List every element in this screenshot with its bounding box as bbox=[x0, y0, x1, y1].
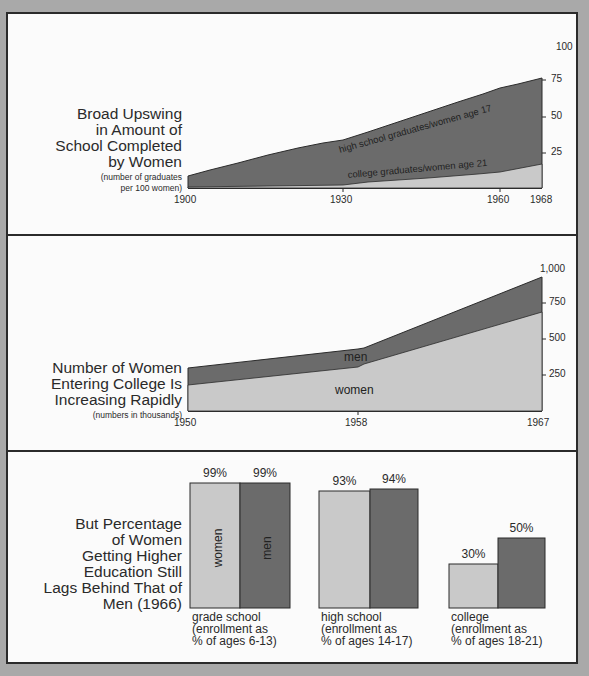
category-high-school: high school (enrollment as % of ages 14-… bbox=[321, 611, 412, 647]
value-high-school-men: 94% bbox=[370, 472, 418, 486]
panel-school-completed: Broad Upswing in Amount of School Comple… bbox=[8, 14, 576, 234]
y-tick-25: 25 bbox=[551, 146, 562, 157]
x-tick-1960: 1960 bbox=[487, 194, 509, 205]
category-grade-school: grade school (enrollment as % of ages 6-… bbox=[192, 611, 277, 647]
value-grade-school-women: 99% bbox=[190, 466, 240, 480]
chart2-area-plot: men women bbox=[8, 236, 580, 452]
panel-entering-college: Number of Women Entering College Is Incr… bbox=[8, 234, 576, 452]
bar-inner-label-women: women bbox=[211, 529, 225, 569]
bar-high-school-men bbox=[370, 489, 418, 608]
x-tick-1958: 1958 bbox=[345, 417, 367, 428]
bar-inner-label-men: men bbox=[260, 536, 274, 559]
label-women: women bbox=[334, 383, 374, 397]
y-tick-1000: 1,000 bbox=[540, 263, 565, 274]
y-tick-750: 750 bbox=[549, 296, 566, 307]
bar-college-women bbox=[449, 564, 498, 608]
value-grade-school-men: 99% bbox=[240, 466, 290, 480]
y-tick-100: 100 bbox=[556, 41, 573, 52]
x-tick-1930: 1930 bbox=[330, 194, 352, 205]
category-college: college (enrollment as % of ages 18-21) bbox=[451, 611, 542, 647]
y-tick-50: 50 bbox=[551, 110, 562, 121]
label-men: men bbox=[344, 350, 367, 364]
x-tick-1967: 1967 bbox=[527, 417, 549, 428]
y-tick-250: 250 bbox=[549, 368, 566, 379]
y-tick-500: 500 bbox=[549, 332, 566, 343]
x-tick-1950: 1950 bbox=[174, 417, 196, 428]
infographic-frame: Broad Upswing in Amount of School Comple… bbox=[6, 12, 578, 664]
value-college-men: 50% bbox=[498, 521, 545, 535]
panel-enrollment-percentage: But Percentage of Women Getting Higher E… bbox=[8, 450, 576, 662]
value-high-school-women: 93% bbox=[319, 474, 370, 488]
value-college-women: 30% bbox=[449, 547, 498, 561]
bar-high-school-women bbox=[319, 491, 370, 608]
x-tick-1900: 1900 bbox=[174, 194, 196, 205]
bar-college-men bbox=[498, 538, 545, 608]
x-tick-1968: 1968 bbox=[530, 194, 552, 205]
y-tick-75: 75 bbox=[551, 73, 562, 84]
